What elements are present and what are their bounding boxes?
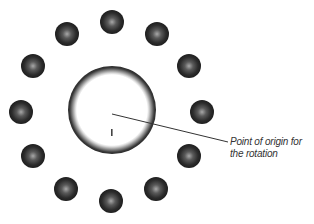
callout-line-2: the rotation	[230, 148, 302, 160]
rotation-diagram	[0, 0, 314, 224]
orbit-dot	[55, 22, 79, 46]
orbit-dot	[177, 54, 201, 78]
orbit-dot	[177, 144, 201, 168]
orbit-dot	[144, 177, 168, 201]
orbit-dot	[190, 100, 214, 124]
orbit-dot	[21, 144, 45, 168]
origin-marker	[111, 129, 113, 136]
orbit-dot	[9, 100, 33, 124]
callout-line-1: Point of origin for	[230, 136, 302, 148]
orbit-dot	[99, 189, 123, 213]
orbit-dot	[100, 10, 124, 34]
orbit-dot	[21, 54, 45, 78]
orbit-dot	[54, 177, 78, 201]
callout-label: Point of origin for the rotation	[230, 136, 302, 160]
orbit-dot	[145, 22, 169, 46]
